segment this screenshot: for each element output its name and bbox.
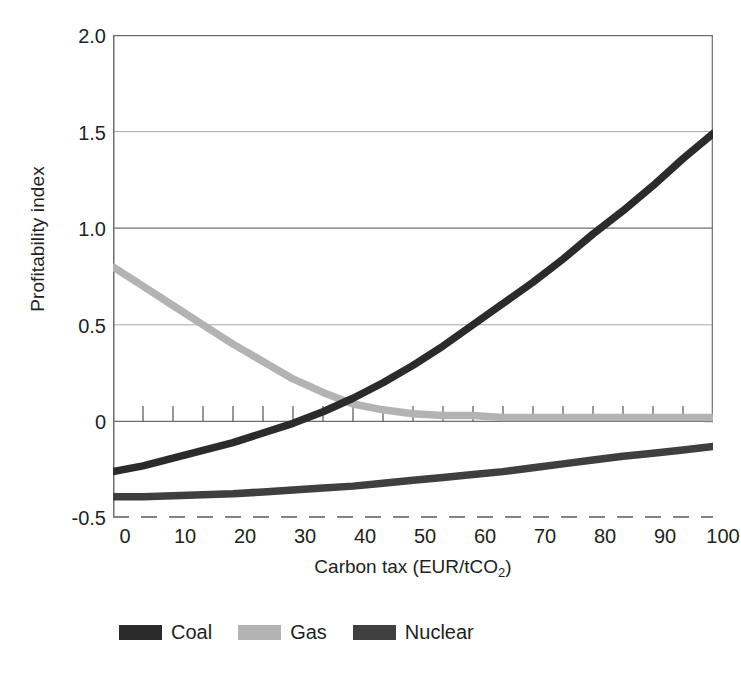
chart-figure: Profitability index 2.0 1.5 1.0 0.5 0 -0…: [0, 0, 741, 678]
plot-svg: [113, 35, 713, 518]
legend-label-nuclear: Nuclear: [405, 622, 474, 642]
y-tick-label-0: 0: [46, 412, 106, 432]
legend-swatch-nuclear: [353, 625, 396, 640]
legend-entry-coal: Coal: [119, 622, 212, 642]
x-axis-tick-labels: 0 10 20 30 40 50 60 70 80 90 100: [113, 524, 713, 554]
legend-entry-gas: Gas: [238, 622, 327, 642]
x-tick-label-60: 60: [455, 524, 515, 548]
series-line-gas: [113, 267, 713, 418]
y-axis-tick-labels: 2.0 1.5 1.0 0.5 0 -0.5: [42, 0, 106, 560]
plot-area: [113, 35, 713, 518]
y-tick-label-1-0: 1.0: [46, 219, 106, 239]
y-tick-label-0-5: 0.5: [46, 316, 106, 336]
data-series: [113, 134, 713, 497]
x-tick-label-90: 90: [635, 524, 695, 548]
legend-swatch-coal: [119, 625, 162, 640]
x-axis-title-main: Carbon tax (EUR/tCO: [314, 556, 498, 577]
x-tick-label-10: 10: [155, 524, 215, 548]
x-axis-title-tail: ): [505, 556, 511, 577]
x-tick-label-70: 70: [515, 524, 575, 548]
x-tick-label-20: 20: [215, 524, 275, 548]
y-tick-label-1-5: 1.5: [46, 123, 106, 143]
legend-label-gas: Gas: [290, 622, 327, 642]
x-tick-label-100: 100: [693, 524, 741, 548]
x-tick-label-50: 50: [395, 524, 455, 548]
x-tick-label-30: 30: [275, 524, 335, 548]
legend-label-coal: Coal: [171, 622, 212, 642]
y-tick-label-2-0: 2.0: [46, 26, 106, 46]
x-tick-label-80: 80: [575, 524, 635, 548]
x-tick-label-40: 40: [335, 524, 395, 548]
legend-swatch-gas: [238, 625, 281, 640]
legend-entry-nuclear: Nuclear: [353, 622, 474, 642]
chart-legend: Coal Gas Nuclear: [113, 612, 713, 652]
axis-spines: [114, 35, 713, 518]
x-tick-label-0: 0: [95, 524, 155, 548]
x-axis-title: Carbon tax (EUR/tCO2): [113, 556, 713, 580]
